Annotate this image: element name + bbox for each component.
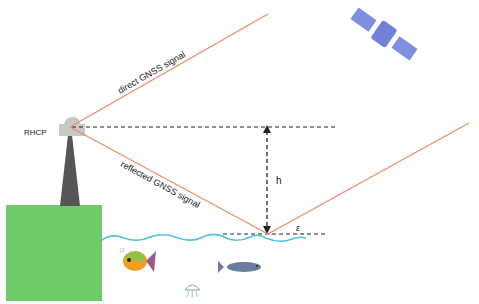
direct-signal-label: direct GNSS signal	[116, 49, 187, 95]
reflected-signal-label: reflected GNSS signal	[119, 159, 202, 210]
jellyfish-icon	[185, 285, 200, 298]
land-block	[6, 205, 102, 301]
height-arrow	[263, 125, 271, 234]
water-surface	[102, 234, 306, 241]
antenna-label: RHCP	[24, 128, 47, 137]
tropical-fish-icon	[120, 248, 156, 272]
elevation-angle-label: ε	[296, 223, 301, 233]
direct-signal-line	[70, 14, 268, 127]
gnss-reflectometry-diagram: RHCP h direct GNSS signal reflected GNSS…	[0, 0, 479, 304]
reflected-signal-outgoing	[268, 123, 469, 234]
height-label: h	[276, 175, 282, 186]
satellite-icon	[348, 4, 420, 63]
cod-fish-icon	[218, 261, 261, 273]
tower-icon	[60, 135, 80, 206]
